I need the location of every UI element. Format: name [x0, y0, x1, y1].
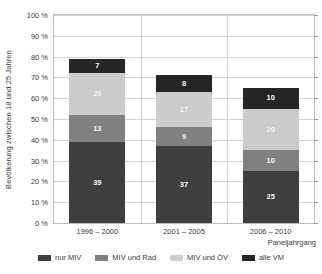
y-axis-tick-label: 70 %	[31, 73, 48, 82]
gridline	[54, 15, 314, 16]
bar-segment[interactable]: 10	[243, 88, 299, 109]
y-axis-title-text: Bevölkerung zwischen 18 und 25 Jahren	[4, 50, 13, 189]
bar-segment[interactable]: 7	[69, 59, 125, 74]
bar-segment[interactable]: 10	[243, 150, 299, 171]
stacked-bar-chart: Bevölkerung zwischen 18 und 25 Jahren 0 …	[0, 0, 322, 274]
y-axis-tick-mark	[314, 202, 318, 203]
y-axis-tick-label: 60 %	[31, 94, 48, 103]
bar-segment-value-label: 20	[266, 126, 274, 134]
category-separator	[141, 15, 142, 223]
bar-segment[interactable]: 37	[156, 146, 212, 223]
bar-segment[interactable]: 39	[69, 142, 125, 223]
legend-swatch	[95, 255, 108, 261]
y-axis-tick-label: 10 %	[31, 198, 48, 207]
y-axis-tick-label: 40 %	[31, 135, 48, 144]
legend-label: MIV und ÖV	[187, 253, 228, 262]
bar-segment[interactable]: 9	[156, 127, 212, 146]
y-axis-tick-mark	[314, 77, 318, 78]
y-axis-tick-label: 100 %	[27, 11, 48, 20]
legend-item[interactable]: MIV und Rad	[95, 253, 156, 262]
bar-column[interactable]: 3913207	[69, 59, 125, 223]
y-axis-tick-mark	[314, 140, 318, 141]
bar-segment-value-label: 37	[180, 181, 188, 189]
bar-segment-value-label: 9	[182, 133, 186, 141]
bar-segment[interactable]: 8	[156, 75, 212, 92]
legend-item[interactable]: MIV und ÖV	[170, 253, 228, 262]
y-axis-title: Bevölkerung zwischen 18 und 25 Jahren	[0, 0, 16, 238]
x-axis-tick-label: 2001 – 2005	[163, 227, 205, 236]
y-axis-tick-label: 50 %	[31, 115, 48, 124]
y-axis-tick-labels: 0 %10 %20 %30 %40 %50 %60 %70 %80 %90 %1…	[16, 14, 52, 224]
y-axis-tick-mark	[314, 181, 318, 182]
y-axis-tick-label: 20 %	[31, 177, 48, 186]
y-axis-tick-label: 30 %	[31, 156, 48, 165]
chart-legend: nur MIVMIV und RadMIV und ÖValle VM	[0, 253, 322, 262]
legend-swatch	[38, 255, 51, 261]
bar-segment-value-label: 13	[93, 125, 101, 133]
legend-label: MIV und Rad	[112, 253, 156, 262]
y-axis-tick-label: 90 %	[31, 31, 48, 40]
legend-swatch	[242, 255, 255, 261]
bar-column[interactable]: 379178	[156, 75, 212, 223]
legend-label: nur MIV	[55, 253, 81, 262]
y-axis-tick-mark	[314, 98, 318, 99]
y-axis-tick-label: 80 %	[31, 52, 48, 61]
bar-segment[interactable]: 17	[156, 92, 212, 127]
bar-segment[interactable]: 13	[69, 115, 125, 142]
y-axis-tick-mark	[314, 161, 318, 162]
bar-segment-value-label: 10	[266, 94, 274, 102]
bar-segment-value-label: 25	[266, 193, 274, 201]
y-axis-tick-mark	[314, 15, 318, 16]
bar-segment-value-label: 17	[180, 106, 188, 114]
bar-segment[interactable]: 20	[69, 73, 125, 115]
category-separator	[227, 15, 228, 223]
y-axis-tick-mark	[314, 119, 318, 120]
bar-segment-value-label: 10	[266, 157, 274, 165]
bar-segment[interactable]: 20	[243, 109, 299, 151]
x-axis-tick-label: 1996 – 2000	[76, 227, 118, 236]
x-axis-tick-label: 2006 – 2010	[250, 227, 292, 236]
gridline	[54, 36, 314, 37]
plot-area: 391320737917825102010	[53, 14, 315, 224]
bar-segment[interactable]: 25	[243, 171, 299, 223]
legend-swatch	[170, 255, 183, 261]
y-axis-tick-mark	[314, 36, 318, 37]
bar-segment-value-label: 7	[95, 62, 99, 70]
bar-segment-value-label: 8	[182, 80, 186, 88]
y-axis-tick-label: 0 %	[35, 219, 48, 228]
x-axis-title: Paneljahrgang	[268, 238, 316, 247]
legend-item[interactable]: nur MIV	[38, 253, 81, 262]
legend-item[interactable]: alle VM	[242, 253, 284, 262]
bar-column[interactable]: 25102010	[243, 88, 299, 223]
bar-segment-value-label: 20	[93, 90, 101, 98]
y-axis-tick-mark	[314, 57, 318, 58]
y-axis-tick-mark	[314, 223, 318, 224]
legend-label: alle VM	[259, 253, 284, 262]
bar-segment-value-label: 39	[93, 179, 101, 187]
gridline	[54, 57, 314, 58]
